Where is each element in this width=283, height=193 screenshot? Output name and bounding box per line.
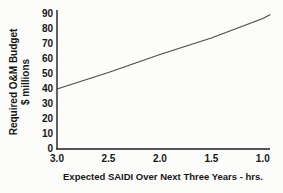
x-tick-label: 1.5: [198, 154, 224, 164]
x-axis-title: Expected SAIDI Over Next Three Years - h…: [50, 171, 276, 182]
x-tick-label: 2.0: [147, 154, 173, 164]
x-tick-label: 3.0: [44, 154, 70, 164]
y-tick-label: 30: [31, 99, 53, 109]
x-tick-label: 2.5: [95, 154, 121, 164]
y-axis-title: Required O&M Budget $ millions: [8, 2, 32, 162]
y-tick-label: 50: [31, 69, 53, 79]
y-axis-title-line2: $ millions: [20, 2, 32, 162]
budget-curve: [57, 15, 270, 89]
y-tick-label: 40: [31, 84, 53, 94]
y-tick-label: 90: [31, 9, 53, 19]
y-axis-title-line1: Required O&M Budget: [8, 2, 20, 162]
x-tick-label: 1.0: [250, 154, 276, 164]
y-tick-label: 70: [31, 39, 53, 49]
saidi-budget-chart: 0102030405060708090 3.02.52.01.51.0 Requ…: [0, 0, 283, 193]
y-tick-label: 60: [31, 54, 53, 64]
y-tick-label: 10: [31, 129, 53, 139]
y-tick-label: 80: [31, 24, 53, 34]
y-tick-label: 20: [31, 114, 53, 124]
